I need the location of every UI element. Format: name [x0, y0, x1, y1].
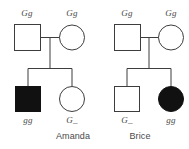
- brice-sister-symbol-affected: [159, 87, 184, 112]
- amanda-mother-symbol: [60, 25, 85, 50]
- pedigree-figure: [0, 0, 189, 149]
- amanda-father-symbol: [15, 25, 41, 51]
- amanda-genotype: G_: [59, 115, 85, 125]
- amanda-brother-genotype: gg: [15, 115, 41, 125]
- brice-father-genotype: Gg: [114, 8, 140, 18]
- amanda-caption: Amanda: [47, 131, 99, 141]
- brice-sister-genotype: gg: [158, 115, 184, 125]
- brice-genotype: G_: [114, 115, 140, 125]
- brice-symbol: [115, 87, 140, 112]
- brice-mother-genotype: Gg: [158, 8, 184, 18]
- amanda-father-genotype: Gg: [14, 8, 40, 18]
- brice-father-symbol: [115, 25, 141, 51]
- amanda-symbol: [60, 87, 85, 112]
- amanda-mother-genotype: Gg: [59, 8, 85, 18]
- amanda-brother-symbol-affected: [16, 87, 41, 112]
- brice-mother-symbol: [159, 25, 184, 50]
- brice-caption: Brice: [114, 131, 166, 141]
